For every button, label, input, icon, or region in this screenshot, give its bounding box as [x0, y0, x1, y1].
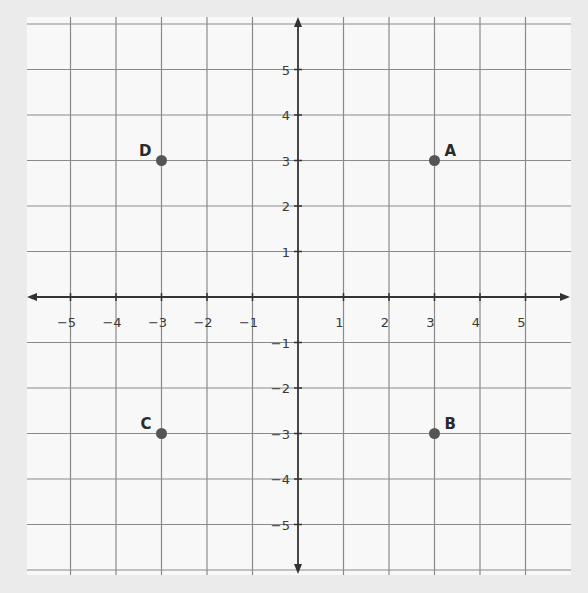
x-tick-label: 1 [335, 315, 343, 330]
x-tick-label: −5 [57, 315, 76, 330]
y-tick-label: 2 [282, 199, 290, 214]
y-tick-label: −1 [271, 336, 290, 351]
point-a-label: A [445, 142, 457, 160]
point-d-marker [156, 155, 167, 166]
y-tick-label: −5 [271, 518, 290, 533]
y-tick-label: 4 [282, 108, 290, 123]
point-c-marker [156, 428, 167, 439]
y-tick-label: 1 [282, 245, 290, 260]
point-d-label: D [139, 142, 151, 160]
point-a-marker [429, 155, 440, 166]
x-tick-label: 5 [517, 315, 525, 330]
x-tick-label: 2 [381, 315, 389, 330]
point-b-marker [429, 428, 440, 439]
x-tick-label: 4 [472, 315, 480, 330]
point-c-label: C [140, 415, 151, 433]
coordinate-plane: −5−4−3−2−112345 54321−1−2−3−4−5 ABCD [0, 0, 588, 593]
x-tick-label: −2 [193, 315, 212, 330]
point-b-label: B [445, 415, 456, 433]
x-tick-label: −1 [239, 315, 258, 330]
x-tick-label: −4 [102, 315, 121, 330]
y-tick-label: 5 [282, 63, 290, 78]
x-tick-label: 3 [426, 315, 434, 330]
y-tick-label: −3 [271, 427, 290, 442]
grid-panel [27, 17, 571, 575]
x-tick-label: −3 [148, 315, 167, 330]
y-tick-label: −4 [271, 472, 290, 487]
y-tick-label: 3 [282, 154, 290, 169]
y-tick-label: −2 [271, 381, 290, 396]
